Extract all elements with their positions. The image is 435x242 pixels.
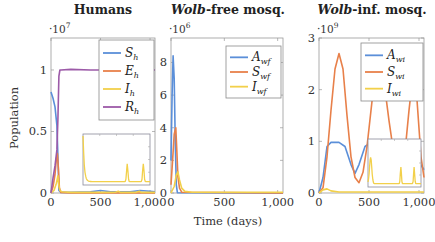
y-tick-label: 0 [160, 186, 167, 200]
inset-plot [83, 134, 150, 185]
legend: AwfSwfIwf [226, 46, 281, 98]
axis-scale-label: ·106 [169, 21, 191, 35]
chart-panel-2: Wolb-free mosq.·1060246805001,000AwfSwfI… [160, 2, 294, 209]
title-text: -free mosq. [206, 2, 285, 17]
legend-main: A [386, 48, 396, 62]
legend-sub: h [130, 89, 135, 98]
y-tick-label: 0.5 [29, 124, 47, 138]
title-text: Humans [74, 2, 132, 17]
y-tick-label: 0 [308, 186, 315, 200]
legend-main: R [124, 100, 134, 114]
legend-sub: wi [396, 55, 406, 64]
y-tick-label: 6 [160, 88, 167, 102]
chart-panel-1: Humans·10700.5105001,000ShEhIhRh [29, 2, 167, 209]
legend-main: S [125, 46, 133, 60]
legend: ShEhIhRh [99, 40, 154, 120]
y-tick-label: 0 [40, 186, 47, 200]
legend-main: A [251, 50, 261, 64]
legend-sub: h [133, 53, 138, 62]
figure-canvas: Humans·10700.5105001,000ShEhIhRhWolb-fre… [0, 0, 435, 242]
y-tick-label: 4 [160, 121, 167, 135]
x-tick-label: 0 [47, 195, 54, 209]
legend-sub: wi [395, 72, 405, 81]
y-tick-label: 3 [308, 31, 315, 45]
scale-base: ·10 [49, 23, 66, 35]
title-italic: Wolb [317, 2, 352, 17]
panel-title: Wolb-free mosq. [171, 2, 285, 17]
chart-panel-3: Wolb-inf. mosq.·109012305001,000AwiSwiIw… [308, 2, 435, 209]
legend-main: S [252, 65, 260, 79]
scale-exponent: 7 [66, 21, 71, 30]
legend: AwiSwiIwi [361, 43, 423, 101]
y-tick-label: 1 [40, 63, 47, 77]
title-italic: Wolb [171, 2, 206, 17]
x-axis-label: Time (days) [194, 214, 262, 228]
panel-title: Humans [74, 2, 132, 17]
scale-exponent: 9 [334, 21, 339, 30]
legend-sub: h [134, 71, 139, 80]
legend-main: E [124, 64, 134, 78]
y-tick-label: 1 [308, 134, 315, 148]
legend-main: S [387, 65, 395, 79]
scale-base: ·10 [317, 23, 334, 35]
x-tick-label: 0 [315, 195, 322, 209]
x-tick-label: 0 [167, 195, 174, 209]
x-tick-label: 1,000 [261, 195, 294, 209]
series-line-i-wf [171, 172, 283, 193]
y-tick-label: 2 [160, 153, 167, 167]
axis-scale-label: ·107 [49, 21, 71, 35]
y-tick-label: 8 [160, 55, 167, 69]
legend-sub: wi [392, 89, 402, 98]
axis-scale-label: ·109 [317, 21, 339, 35]
scale-base: ·10 [169, 23, 186, 35]
inset-frame [83, 134, 150, 185]
legend-sub: h [134, 107, 139, 116]
y-tick-label: 2 [308, 83, 315, 97]
x-tick-label: 500 [358, 195, 380, 209]
panel-title: Wolb-inf. mosq. [317, 2, 426, 17]
inset-plot [368, 139, 421, 187]
series-line-i-wi [319, 189, 424, 193]
title-text: -inf. mosq. [352, 2, 426, 17]
series-line-s-wf [171, 128, 283, 193]
y-axis-label: Population [7, 86, 21, 149]
scale-exponent: 6 [186, 21, 191, 30]
x-tick-label: 1,000 [403, 195, 435, 209]
x-tick-label: 500 [90, 195, 112, 209]
x-tick-label: 500 [213, 195, 235, 209]
